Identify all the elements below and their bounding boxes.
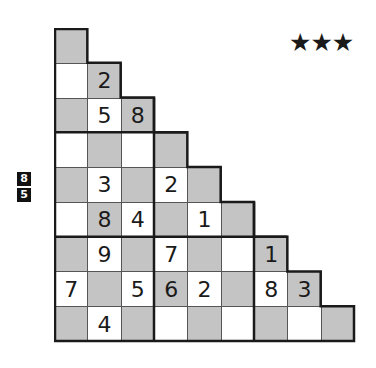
grid-cell-r4-c2[interactable] xyxy=(121,167,155,203)
grid-cell-r8-c5[interactable] xyxy=(221,306,255,342)
grid-cell-r8-c7[interactable] xyxy=(287,306,321,342)
grid-cell-r4-c1: 3 xyxy=(87,167,121,203)
grid-cell-r7-c4: 2 xyxy=(187,271,221,307)
side-clue-2: 5 xyxy=(17,188,31,202)
grid-cell-r5-c5[interactable] xyxy=(221,202,255,238)
grid-cell-r6-c1: 9 xyxy=(87,237,121,273)
triangle-sudoku-grid: 258328419717562834 xyxy=(54,28,354,341)
grid-cell-r5-c1: 8 xyxy=(87,202,121,238)
grid-cell-r6-c0[interactable] xyxy=(54,237,88,273)
grid-cell-r8-c1: 4 xyxy=(87,306,121,342)
grid-cell-r1-c1: 2 xyxy=(87,63,121,99)
grid-cell-r5-c2: 4 xyxy=(121,202,155,238)
grid-cell-r4-c3: 2 xyxy=(154,167,188,203)
grid-cell-r2-c2: 8 xyxy=(121,98,155,134)
grid-cell-r3-c1[interactable] xyxy=(87,132,121,168)
grid-cell-r6-c4[interactable] xyxy=(187,237,221,273)
grid-cell-r3-c2[interactable] xyxy=(121,132,155,168)
grid-cell-r6-c2[interactable] xyxy=(121,237,155,273)
grid-cell-r8-c8[interactable] xyxy=(321,306,355,342)
grid-cell-r8-c0[interactable] xyxy=(54,306,88,342)
grid-cell-r8-c2[interactable] xyxy=(121,306,155,342)
grid-cell-r5-c0[interactable] xyxy=(54,202,88,238)
grid-cell-r5-c4: 1 xyxy=(187,202,221,238)
grid-cell-r7-c6: 8 xyxy=(254,271,288,307)
grid-cell-r3-c0[interactable] xyxy=(54,132,88,168)
grid-cell-r6-c3: 7 xyxy=(154,237,188,273)
grid-cell-r7-c1[interactable] xyxy=(87,271,121,307)
grid-cell-r8-c3[interactable] xyxy=(154,306,188,342)
grid-cell-r7-c5[interactable] xyxy=(221,271,255,307)
grid-cell-r0-c0[interactable] xyxy=(54,28,88,64)
grid-cell-r7-c7: 3 xyxy=(287,271,321,307)
grid-cell-r8-c4[interactable] xyxy=(187,306,221,342)
grid-cell-r2-c1: 5 xyxy=(87,98,121,134)
grid-cell-r5-c3[interactable] xyxy=(154,202,188,238)
grid-cell-r1-c0[interactable] xyxy=(54,63,88,99)
grid-cell-r6-c5[interactable] xyxy=(221,237,255,273)
side-clue-1: 8 xyxy=(17,172,31,186)
grid-cell-r2-c0[interactable] xyxy=(54,98,88,134)
grid-cell-r3-c3[interactable] xyxy=(154,132,188,168)
grid-cell-r7-c3: 6 xyxy=(154,271,188,307)
side-clues: 8 5 xyxy=(17,172,31,204)
grid-cell-r8-c6[interactable] xyxy=(254,306,288,342)
grid-cell-r4-c4[interactable] xyxy=(187,167,221,203)
grid-cell-r7-c0: 7 xyxy=(54,271,88,307)
grid-cell-r4-c0[interactable] xyxy=(54,167,88,203)
grid-cell-r6-c6: 1 xyxy=(254,237,288,273)
grid-cell-r7-c2: 5 xyxy=(121,271,155,307)
